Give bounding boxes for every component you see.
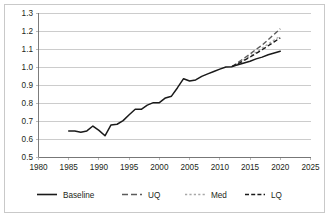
series-line-uq [232,29,280,67]
legend-label-med: Med [211,191,227,200]
y-tick-label: 0.5 [22,153,34,162]
x-tick-label: 1985 [60,163,79,172]
legend-item-med[interactable]: Med [185,191,227,200]
legend-item-lq[interactable]: LQ [245,191,282,200]
y-tick-label: 0.7 [22,117,34,126]
legend-label-uq: UQ [148,191,160,200]
x-tick-label: 2025 [301,163,320,172]
x-axis-tick-labels: 1980198519901995200020052010201520202025 [29,163,320,172]
chart-legend: BaselineUQMedLQ [37,191,282,200]
y-tick-label: 0.8 [22,99,34,108]
y-tick-label: 1.1 [22,45,34,54]
y-tick-label: 1.2 [22,27,34,36]
legend-item-baseline[interactable]: Baseline [37,191,95,200]
y-tick-label: 0.9 [22,81,34,90]
x-tick-label: 1995 [120,163,139,172]
y-axis-tick-labels: 1.31.21.11.00.90.80.70.60.5 [22,9,34,162]
x-tick-label: 2000 [150,163,169,172]
line-chart: 1.31.21.11.00.90.80.70.60.5 198019851990… [0,0,331,219]
x-tick-label: 2005 [181,163,200,172]
legend-item-uq[interactable]: UQ [122,191,160,200]
x-tick-label: 2010 [211,163,230,172]
series-line-baseline [69,51,281,136]
tickmarks-group [36,13,311,160]
x-tick-label: 2015 [241,163,260,172]
series-group [69,29,281,136]
y-tick-label: 1.0 [22,63,34,72]
x-tick-label: 2020 [271,163,290,172]
legend-label-lq: LQ [271,191,282,200]
legend-label-baseline: Baseline [63,191,95,200]
x-tick-label: 1980 [29,163,48,172]
y-tick-label: 1.3 [22,9,34,18]
gridlines-group [39,13,311,157]
y-tick-label: 0.6 [22,135,34,144]
x-tick-label: 1990 [90,163,109,172]
